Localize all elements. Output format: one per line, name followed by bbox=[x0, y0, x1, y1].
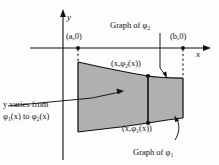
leader-upper-graph bbox=[160, 33, 166, 76]
figure-region-between-graphs: y x (a,0) (b,0) Graph of φ₂ (x,φ₂(x)) (x… bbox=[0, 0, 219, 165]
x-axis-label: x bbox=[196, 49, 200, 59]
y-axis-label: y bbox=[67, 12, 71, 22]
note-y-varies-line1: y varies from bbox=[3, 98, 49, 110]
note-y-varies-line2: φ₁(x) to φ₂(x) bbox=[3, 110, 49, 122]
dot-upper-point bbox=[146, 74, 150, 78]
x-axis-arrowhead bbox=[203, 45, 211, 51]
label-lower-graph: Graph of φ₁ bbox=[133, 147, 173, 158]
label-left-endpoint: (a,0) bbox=[66, 31, 82, 42]
dot-point-a bbox=[76, 46, 80, 50]
dot-point-b bbox=[181, 46, 185, 50]
label-lower-point: (x,φ₁(x)) bbox=[122, 123, 152, 134]
note-y-varies: y varies from φ₁(x) to φ₂(x) bbox=[3, 98, 49, 123]
label-upper-graph: Graph of φ₂ bbox=[110, 20, 150, 31]
label-upper-point: (x,φ₂(x)) bbox=[111, 58, 141, 69]
label-right-endpoint: (b,0) bbox=[170, 31, 186, 42]
y-axis-arrowhead bbox=[60, 9, 66, 17]
